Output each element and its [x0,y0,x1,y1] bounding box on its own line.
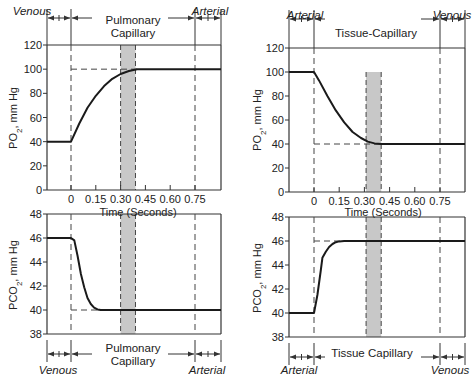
right-top-center-label: Tissue-Capillary [335,27,417,39]
right-bottom-region-venous: Venous [431,364,470,376]
x-tick-label: 0.45 [135,193,156,205]
left-bottom-panel: 384042444648 [30,208,221,362]
right-bottom-center-label: Tissue Capillary [331,347,413,359]
x-tick-label: 0.75 [184,193,205,205]
left-bottom-center-label-2: Capillary [111,355,156,367]
y-tick-label: 46 [272,235,284,247]
left-bottom-region-venous: Venous [39,364,78,376]
y-tick-label: 60 [272,114,284,126]
left-bottom-center-label-1: Pulmonary [106,342,161,354]
y-tick-label: 48 [272,211,284,223]
y-tick-label: 44 [272,259,284,271]
x-tick-label: 0 [68,193,74,205]
right-bottom-panel: 384042444648 [272,211,465,365]
y-tick-label: 42 [272,283,284,295]
y-tick-label: 20 [272,162,284,174]
right-top-region-venous: Venous [433,9,472,21]
y-tick-label: 40 [30,304,42,316]
y-tick-label: 40 [30,136,42,148]
left-top-ylabel: PO2, mm Hg [7,87,24,149]
y-tick-label: 44 [30,256,42,268]
y-tick-label: 40 [272,307,284,319]
x-tick-label: 0.60 [159,193,180,205]
y-tick-label: 100 [266,66,284,78]
left-bottom-region-arterial: Arterial [188,364,226,376]
y-tick-label: 60 [30,112,42,124]
y-tick-label: 48 [30,208,42,220]
shaded-interval [366,217,381,337]
y-tick-label: 38 [30,328,42,340]
x-tick-label: 0.15 [85,193,106,205]
right-top-ylabel: PO2, mm Hg [251,89,268,151]
left-xlabel: Time (Seconds) [99,206,176,218]
shaded-interval [121,45,136,190]
left-top-center-label-2: Capillary [111,27,156,39]
left-top-center-label-1: Pulmonary [106,14,161,26]
x-tick-label: 0 [311,195,317,207]
y-tick-label: 42 [30,280,42,292]
right-xlabel: Time (Seconds) [344,206,421,218]
x-tick-label: 0.30 [110,193,131,205]
right-bottom-region-arterial: Arterial [280,364,318,376]
y-tick-label: 20 [30,160,42,172]
y-tick-label: 100 [24,63,42,75]
x-tick-label: 0.75 [429,195,450,207]
right-top-region-arterial: Arterial [286,9,324,21]
left-top-region-arterial: Arterial [191,5,229,17]
oxygen-co2-exchange-figure: 02040608010012000.150.300.450.600.753840… [0,0,475,382]
left-top-region-venous: Venous [13,5,52,17]
y-tick-label: 120 [24,39,42,51]
y-tick-label: 80 [30,87,42,99]
y-tick-label: 46 [30,232,42,244]
y-tick-label: 0 [278,186,284,198]
left-bottom-ylabel: PCO2, mm Hg [7,240,24,310]
right-top-panel: 02040608010012000.150.300.450.600.75 [266,10,465,207]
y-tick-label: 0 [36,184,42,196]
y-tick-label: 80 [272,90,284,102]
y-tick-label: 40 [272,138,284,150]
shaded-interval [366,72,381,192]
y-tick-label: 120 [266,42,284,54]
shaded-interval [121,214,136,334]
y-tick-label: 38 [272,331,284,343]
right-bottom-ylabel: PCO2, mm Hg [251,243,268,313]
